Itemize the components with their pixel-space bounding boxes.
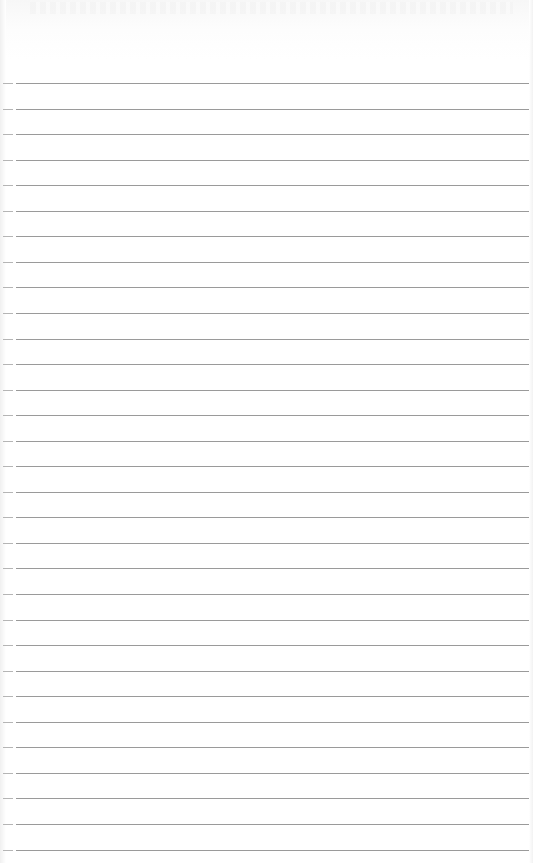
margin-dash: [3, 390, 13, 391]
ruled-line: [16, 185, 533, 186]
margin-dash: [3, 543, 13, 544]
ruled-line: [16, 134, 533, 135]
margin-dash: [3, 645, 13, 646]
ruled-line: [16, 620, 533, 621]
ruled-line: [16, 568, 533, 569]
margin-dash: [3, 594, 13, 595]
margin-dash: [3, 620, 13, 621]
margin-dash: [3, 773, 13, 774]
margin-dash: [3, 824, 13, 825]
ruled-line: [16, 364, 533, 365]
ruled-line: [16, 517, 533, 518]
margin-dash: [3, 798, 13, 799]
margin-dash: [3, 671, 13, 672]
margin-dash: [3, 722, 13, 723]
ruled-line: [16, 722, 533, 723]
ruled-line: [16, 441, 533, 442]
paper-top-texture: [30, 2, 513, 14]
lined-paper-sheet: [0, 0, 533, 863]
margin-dash: [3, 211, 13, 212]
ruled-line: [16, 798, 533, 799]
ruled-line: [16, 109, 533, 110]
margin-dash: [3, 492, 13, 493]
ruled-line: [16, 696, 533, 697]
margin-dash: [3, 160, 13, 161]
margin-dash: [3, 236, 13, 237]
margin-dash: [3, 262, 13, 263]
ruled-line: [16, 83, 533, 84]
margin-dash: [3, 517, 13, 518]
ruled-line: [16, 313, 533, 314]
margin-dash: [3, 696, 13, 697]
margin-dash: [3, 441, 13, 442]
margin-dash: [3, 313, 13, 314]
ruled-line: [16, 850, 533, 851]
ruled-line: [16, 773, 533, 774]
margin-dash: [3, 415, 13, 416]
ruled-line: [16, 236, 533, 237]
margin-dash: [3, 185, 13, 186]
margin-dash: [3, 109, 13, 110]
margin-dash: [3, 850, 13, 851]
margin-dash: [3, 364, 13, 365]
ruled-line: [16, 671, 533, 672]
margin-dash: [3, 466, 13, 467]
ruled-line: [16, 747, 533, 748]
margin-dash: [3, 134, 13, 135]
ruled-line: [16, 543, 533, 544]
margin-dash: [3, 339, 13, 340]
ruled-line: [16, 645, 533, 646]
ruled-line: [16, 287, 533, 288]
ruled-line: [16, 211, 533, 212]
ruled-line: [16, 262, 533, 263]
margin-dash: [3, 568, 13, 569]
ruled-line: [16, 415, 533, 416]
ruled-line: [16, 824, 533, 825]
margin-dash: [3, 747, 13, 748]
margin-dash: [3, 83, 13, 84]
ruled-line: [16, 339, 533, 340]
ruled-line: [16, 492, 533, 493]
ruled-line: [16, 466, 533, 467]
ruled-line: [16, 160, 533, 161]
ruled-line: [16, 594, 533, 595]
margin-dash: [3, 287, 13, 288]
ruled-line: [16, 390, 533, 391]
